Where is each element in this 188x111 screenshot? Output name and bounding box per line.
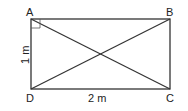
vertex-label-d: D	[26, 92, 34, 104]
vertex-label-b: B	[166, 6, 173, 18]
vertex-label-c: C	[166, 92, 174, 104]
rectangle-diagram: A B C D 2 m 1 m	[0, 0, 188, 111]
width-label: 2 m	[88, 92, 106, 104]
height-label: 1 m	[19, 46, 31, 64]
vertex-label-a: A	[26, 6, 34, 18]
